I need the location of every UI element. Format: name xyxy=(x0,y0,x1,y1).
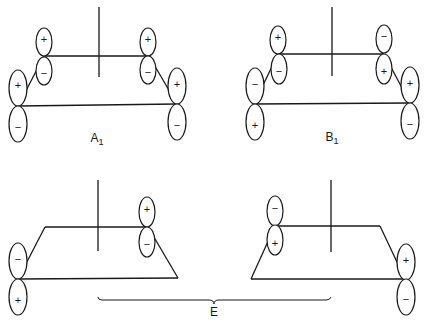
sign-lower: + xyxy=(15,294,21,306)
orbital-diagram: + − + − + − + − A1 xyxy=(0,0,430,325)
sign-upper: + xyxy=(15,79,21,91)
panel-b1: + − − + − + + − B1 xyxy=(246,7,419,146)
sign-lower: − xyxy=(403,293,409,305)
sign-lower: − xyxy=(41,67,47,79)
panel-label-a1: A1 xyxy=(90,131,103,147)
brace-label: E xyxy=(210,305,218,319)
panel-e-right: − + + − xyxy=(251,180,415,315)
diagram-svg: + − + − + − + − A1 xyxy=(0,0,430,325)
sign-upper: + xyxy=(145,33,151,45)
sign-upper: + xyxy=(41,33,47,45)
sign-upper: + xyxy=(144,203,150,215)
sign-lower: − xyxy=(276,65,282,77)
bottom-bond xyxy=(254,103,410,104)
sign-upper: − xyxy=(15,253,21,265)
sign-upper: + xyxy=(174,78,180,90)
sign-lower: − xyxy=(144,238,150,250)
sign-lower: + xyxy=(381,65,387,77)
sign-lower: − xyxy=(145,66,151,78)
panel-a1: + − + − + − + − A1 xyxy=(9,7,186,147)
curly-brace xyxy=(98,297,331,304)
sign-upper: + xyxy=(403,254,409,266)
sign-lower: + xyxy=(252,119,258,131)
sign-upper: − xyxy=(381,30,387,42)
sign-lower: + xyxy=(272,237,278,249)
sign-lower: − xyxy=(174,119,180,131)
sign-upper: − xyxy=(272,202,278,214)
bottom-bond xyxy=(18,104,177,106)
sign-upper: + xyxy=(275,31,281,43)
bottom-bond xyxy=(18,278,178,279)
panel-e-left: + − − + xyxy=(9,180,178,315)
sign-upper: − xyxy=(252,78,258,90)
sign-lower: − xyxy=(407,118,413,130)
panel-label-b1: B1 xyxy=(325,130,338,146)
orbital-top-left: + − xyxy=(270,26,287,84)
sign-lower: − xyxy=(15,121,21,133)
brace-e: E xyxy=(98,297,331,319)
sign-upper: + xyxy=(407,77,413,89)
